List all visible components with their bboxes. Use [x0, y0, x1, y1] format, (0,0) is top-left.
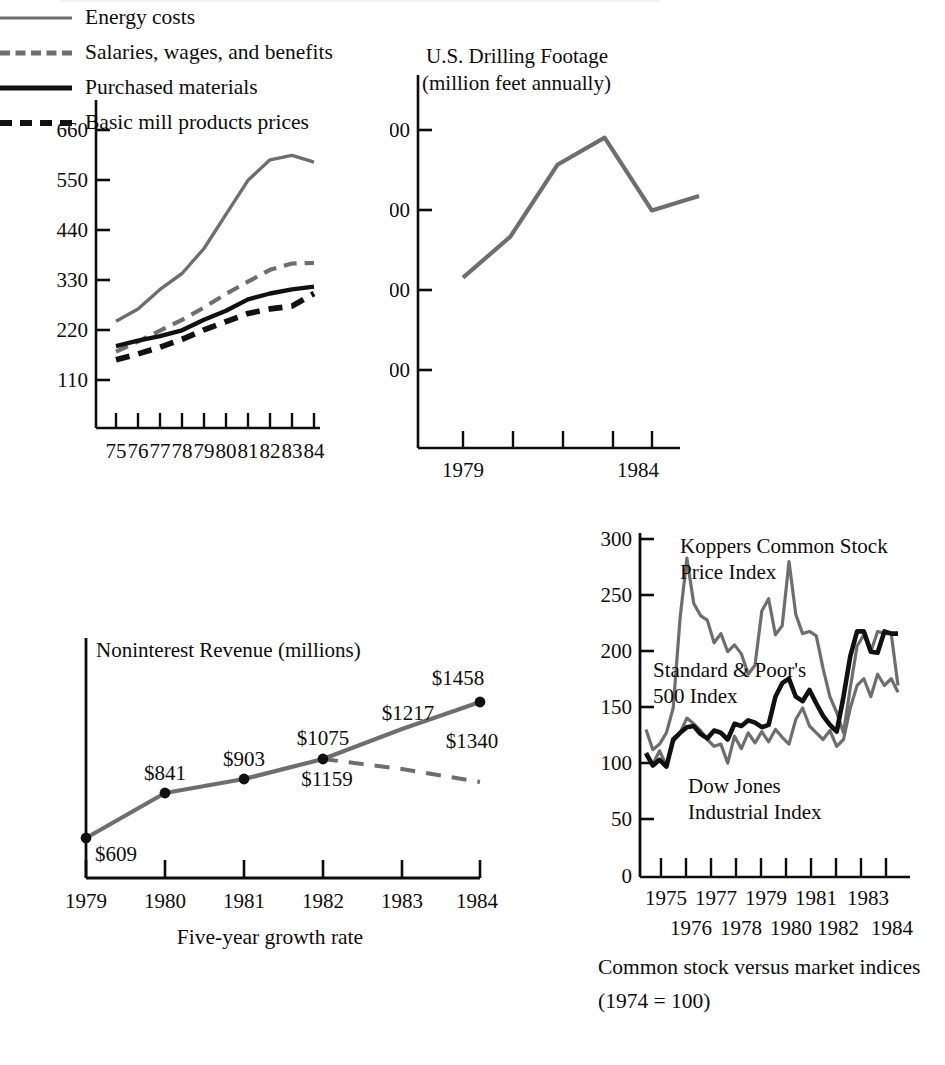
- series-line-energy-costs: [116, 155, 314, 321]
- cost-indices-svg: 660 550 440 330 220 110 75 76 77 78 79 8…: [0, 80, 380, 480]
- drilling-footage-svg: U.S. Drilling Footage (million feet annu…: [390, 30, 720, 480]
- x-tick-label-bottom: 1984: [871, 916, 914, 940]
- chart-cost-indices: 660 550 440 330 220 110 75 76 77 78 79 8…: [0, 80, 380, 484]
- scan-edge-artifact: [60, 0, 660, 2]
- revenue-data-point: [475, 697, 486, 708]
- noninterest-revenue-svg: Noninterest Revenue (millions) 1979 1980…: [40, 630, 500, 920]
- legend-swatch-dashed-gray-icon: [0, 46, 72, 60]
- legend-item-salaries-wages-benefits: Salaries, wages, and benefits: [0, 35, 420, 70]
- x-tick-label-top: 1977: [695, 886, 737, 910]
- series-line-us-drilling-footage: [463, 138, 699, 278]
- stock-indices-svg: 300 250 200 150 100 50 0 1975 1977: [580, 525, 940, 945]
- revenue-chart-caption: Five-year growth rate: [40, 925, 500, 950]
- y-tick-label: 110: [57, 368, 88, 392]
- legend-swatch-dashed-black-icon: [0, 116, 72, 130]
- x-tick-label: 76: [128, 439, 149, 463]
- x-tick-label: 1984: [456, 889, 499, 913]
- y-tick-group: 300 250 200 150 100 50 0: [601, 527, 655, 888]
- x-tick-label-bottom: 1976: [670, 916, 712, 940]
- y-tick-label: 440: [57, 218, 89, 242]
- y-tick-label: 300: [601, 527, 633, 551]
- drilling-footage-series-group: [463, 138, 699, 278]
- y-tick-label: 300: [390, 198, 410, 222]
- y-tick-label: 100: [601, 751, 633, 775]
- x-tick-label: 1981: [223, 889, 265, 913]
- legend-swatch-solid-black-icon: [0, 81, 72, 95]
- x-tick-label: 1983: [381, 889, 423, 913]
- x-tick-label-bottom: 1978: [720, 916, 762, 940]
- y-tick-label: 550: [57, 168, 89, 192]
- y-tick-group: 660 550 440 330 220 110: [57, 118, 111, 392]
- annotation-koppers-line1: Koppers Common Stock: [680, 534, 888, 558]
- annotation-koppers-line2: Price Index: [680, 560, 777, 584]
- y-tick-label: 330: [57, 268, 89, 292]
- revenue-data-point: [239, 774, 250, 785]
- y-tick-label: 200: [390, 278, 410, 302]
- y-tick-label: 250: [601, 583, 633, 607]
- revenue-point-label: $903: [223, 747, 265, 771]
- revenue-point-label: $841: [144, 761, 186, 785]
- legend-label: Salaries, wages, and benefits: [85, 40, 333, 65]
- x-tick-label-bottom: 1982: [817, 916, 859, 940]
- x-tick-group: 1975 1977 1979 1981 1983 1976 1978 1980 …: [645, 858, 914, 940]
- revenue-point-label: $1458: [432, 666, 485, 690]
- x-tick-label: 77: [150, 439, 171, 463]
- stock-caption-line-1: Common stock versus market indices: [598, 950, 920, 984]
- x-tick-label: 79: [194, 439, 215, 463]
- x-tick-label: 82: [260, 439, 281, 463]
- y-tick-label: 50: [611, 807, 632, 831]
- series-line-koppers-common-stock-price-index: [646, 558, 898, 750]
- series-line-purchased-materials: [116, 287, 314, 347]
- y-tick-label: 200: [601, 639, 633, 663]
- revenue-alt-point-label: $1159: [301, 767, 353, 791]
- annotation-dowjones-line2: Industrial Index: [688, 800, 822, 824]
- y-tick-label: 0: [622, 864, 633, 888]
- x-tick-label: 81: [238, 439, 259, 463]
- drilling-chart-title: U.S. Drilling Footage: [426, 44, 608, 68]
- x-tick-label: 1984: [617, 458, 660, 480]
- cost-indices-series-group: [116, 155, 314, 359]
- annotation-sp500-line1: Standard & Poor's: [653, 658, 806, 682]
- x-tick-label-bottom: 1980: [770, 916, 812, 940]
- x-tick-label-top: 1975: [645, 886, 687, 910]
- x-tick-label: 78: [172, 439, 193, 463]
- chart-drilling-footage: U.S. Drilling Footage (million feet annu…: [390, 30, 720, 484]
- annotation-sp500-line2: 500 Index: [653, 684, 738, 708]
- x-tick-label: 83: [282, 439, 303, 463]
- revenue-data-point: [81, 833, 92, 844]
- revenue-point-label: $1075: [297, 726, 350, 750]
- x-tick-label-top: 1979: [745, 886, 787, 910]
- x-tick-label: 84: [304, 439, 326, 463]
- y-tick-label: 150: [601, 695, 633, 719]
- y-tick-label: 400: [390, 118, 410, 142]
- revenue-data-point: [318, 754, 329, 765]
- stock-chart-caption: Common stock versus market indices (1974…: [598, 950, 920, 1018]
- legend-item-energy-costs: Energy costs: [0, 0, 420, 35]
- revenue-point-label: $1217: [382, 701, 435, 725]
- revenue-alt-point-label: $1340: [446, 729, 499, 753]
- stock-caption-line-2: (1974 = 100): [598, 984, 920, 1018]
- revenue-point-label: $609: [95, 842, 137, 866]
- x-tick-label: 1980: [144, 889, 186, 913]
- x-tick-label: 75: [106, 439, 127, 463]
- chart-noninterest-revenue: Noninterest Revenue (millions) 1979 1980…: [40, 630, 500, 924]
- x-tick-label-top: 1983: [847, 886, 889, 910]
- y-tick-group: 400 300 200 100: [390, 118, 432, 382]
- revenue-data-point: [160, 788, 171, 799]
- x-tick-group: 1979 1984: [442, 431, 660, 480]
- revenue-chart-title: Noninterest Revenue (millions): [96, 638, 361, 662]
- legend-swatch-solid-gray-icon: [0, 11, 72, 25]
- annotation-dowjones-line1: Dow Jones: [688, 774, 781, 798]
- x-tick-label: 80: [216, 439, 237, 463]
- x-tick-label-top: 1981: [795, 886, 837, 910]
- x-tick-group: 75 76 77 78 79 80 81 82 83 84: [106, 413, 326, 463]
- drilling-chart-subtitle: (million feet annually): [422, 71, 611, 95]
- x-tick-label: 1982: [302, 889, 344, 913]
- x-tick-group: 1979 1980 1981 1982 1983 1984: [65, 860, 499, 913]
- legend-label: Energy costs: [85, 5, 195, 30]
- chart-stock-indices: 300 250 200 150 100 50 0 1975 1977: [580, 525, 940, 949]
- y-tick-label: 220: [57, 318, 89, 342]
- x-tick-label: 1979: [65, 889, 107, 913]
- y-tick-label: 100: [390, 358, 410, 382]
- x-tick-label: 1979: [442, 458, 484, 480]
